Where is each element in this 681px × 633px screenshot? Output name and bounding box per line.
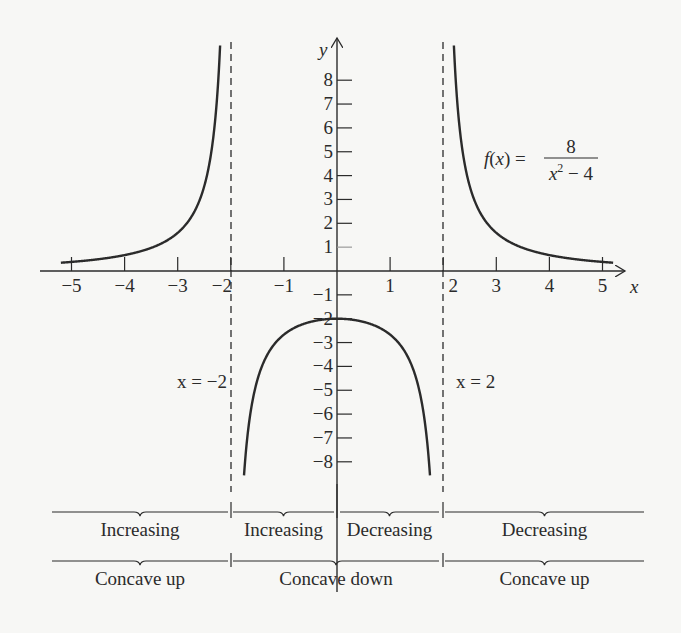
curve-left-branch: [61, 46, 220, 263]
y-tick-label: −2: [313, 308, 333, 329]
y-tick-label: −4: [313, 355, 334, 376]
y-axis-label: y: [317, 39, 328, 60]
y-tick-label: 6: [324, 117, 334, 138]
x-tick-label: −2: [212, 275, 232, 296]
function-graph: −5−4−3−2−11234587654321−1−2−3−4−5−6−7−8x…: [0, 0, 681, 633]
concavity-brace: [445, 561, 644, 565]
y-tick-label: −7: [313, 427, 333, 448]
y-tick-label: −6: [313, 403, 333, 424]
monotonicity-brace: [233, 512, 334, 516]
y-tick-label: 8: [324, 69, 334, 90]
x-tick-label: 4: [545, 275, 555, 296]
x-tick-label: 1: [385, 275, 395, 296]
x-tick-label: 3: [492, 275, 502, 296]
y-tick-label: 3: [324, 188, 334, 209]
concavity-brace: [52, 561, 228, 565]
y-tick-label: 5: [324, 141, 334, 162]
monotonicity-label: Increasing: [100, 519, 180, 540]
y-tick-label: −5: [313, 379, 333, 400]
monotonicity-brace: [52, 512, 228, 516]
y-tick-label: −3: [313, 332, 333, 353]
function-lhs: f(x) =: [484, 148, 526, 170]
y-tick-label: 4: [324, 165, 334, 186]
monotonicity-brace: [445, 512, 644, 516]
x-tick-label: −5: [61, 275, 81, 296]
concavity-label: Concave up: [499, 568, 589, 589]
monotonicity-brace: [340, 512, 439, 516]
x-tick-label: 5: [598, 275, 608, 296]
x-tick-label: 2: [448, 275, 458, 296]
y-tick-label: −8: [313, 451, 333, 472]
function-numerator: 8: [566, 136, 576, 157]
concavity-brace: [233, 561, 439, 565]
function-denominator: x2 − 4: [548, 161, 594, 184]
monotonicity-label: Decreasing: [347, 519, 433, 540]
y-tick-label: 2: [324, 212, 334, 233]
x-axis-label: x: [629, 276, 639, 297]
function-label: f(x) =8x2 − 4: [484, 136, 598, 184]
concavity-label: Concave down: [279, 568, 393, 589]
monotonicity-label: Decreasing: [502, 519, 588, 540]
x-tick-label: −1: [274, 275, 294, 296]
curve-right-branch: [454, 46, 613, 263]
asymptote-label: x = −2: [177, 371, 227, 392]
y-tick-label: 1: [324, 236, 334, 257]
x-tick-label: −3: [168, 275, 188, 296]
y-tick-label: −1: [313, 284, 333, 305]
monotonicity-label: Increasing: [244, 519, 324, 540]
interval-annotations: IncreasingIncreasingDecreasingDecreasing…: [52, 484, 644, 589]
y-tick-label: 7: [324, 93, 334, 114]
asymptote-label: x = 2: [456, 371, 495, 392]
x-tick-label: −4: [114, 275, 135, 296]
concavity-label: Concave up: [95, 568, 185, 589]
